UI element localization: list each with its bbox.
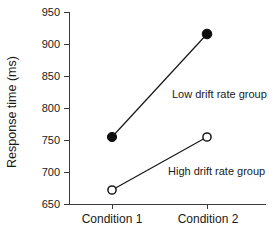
y-tick-label-850: 850 — [42, 70, 60, 82]
line-chart-canvas: Response time (ms) 950 900 850 800 750 7… — [0, 0, 274, 241]
annotation-low-drift-rate-group: Low drift rate group — [172, 88, 267, 100]
series-low-drift-rate-group — [107, 29, 211, 141]
y-tick-label-700: 700 — [42, 166, 60, 178]
series-high-drift-rate-group — [108, 133, 211, 194]
y-axis-title: Response time (ms) — [5, 56, 19, 168]
chart-figure: Response time (ms) 950 900 850 800 750 7… — [0, 0, 274, 241]
data-point-low-condition-1[interactable] — [107, 132, 116, 141]
series-high-segment — [112, 137, 207, 190]
y-tick-label-800: 800 — [42, 102, 60, 114]
data-point-low-condition-2[interactable] — [202, 29, 212, 39]
x-tick-label-condition-1: Condition 1 — [82, 212, 143, 226]
y-tick-label-750: 750 — [42, 134, 60, 146]
data-point-high-condition-2[interactable] — [203, 133, 211, 141]
y-tick-label-650: 650 — [42, 198, 60, 210]
x-tick-label-condition-2: Condition 2 — [178, 212, 239, 226]
series-low-segment — [112, 34, 207, 137]
annotation-high-drift-rate-group: High drift rate group — [168, 165, 265, 177]
y-tick-label-900: 900 — [42, 38, 60, 50]
y-tick-label-950: 950 — [42, 6, 60, 18]
data-point-high-condition-1[interactable] — [108, 186, 116, 194]
